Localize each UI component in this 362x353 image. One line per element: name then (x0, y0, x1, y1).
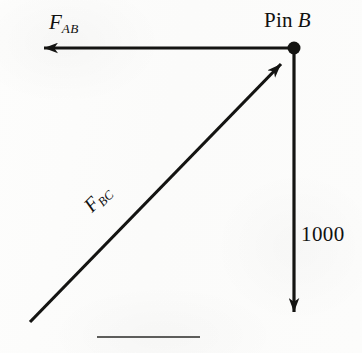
force-fab-label: FAB (49, 12, 79, 35)
force-diagram-figure: PinB FAB FBC 1000 (0, 0, 362, 353)
force-fab-symbol: F (49, 10, 62, 34)
pin-node-dot (288, 42, 301, 55)
vector-fbc-shaft (30, 64, 281, 322)
load-value-label: 1000 (301, 224, 345, 245)
pin-b-label: PinB (264, 10, 311, 31)
pin-b-label-prefix: Pin (264, 8, 293, 32)
vector-canvas (0, 0, 362, 353)
pin-b-label-name: B (298, 8, 311, 32)
force-fab-subscript: AB (62, 21, 79, 36)
